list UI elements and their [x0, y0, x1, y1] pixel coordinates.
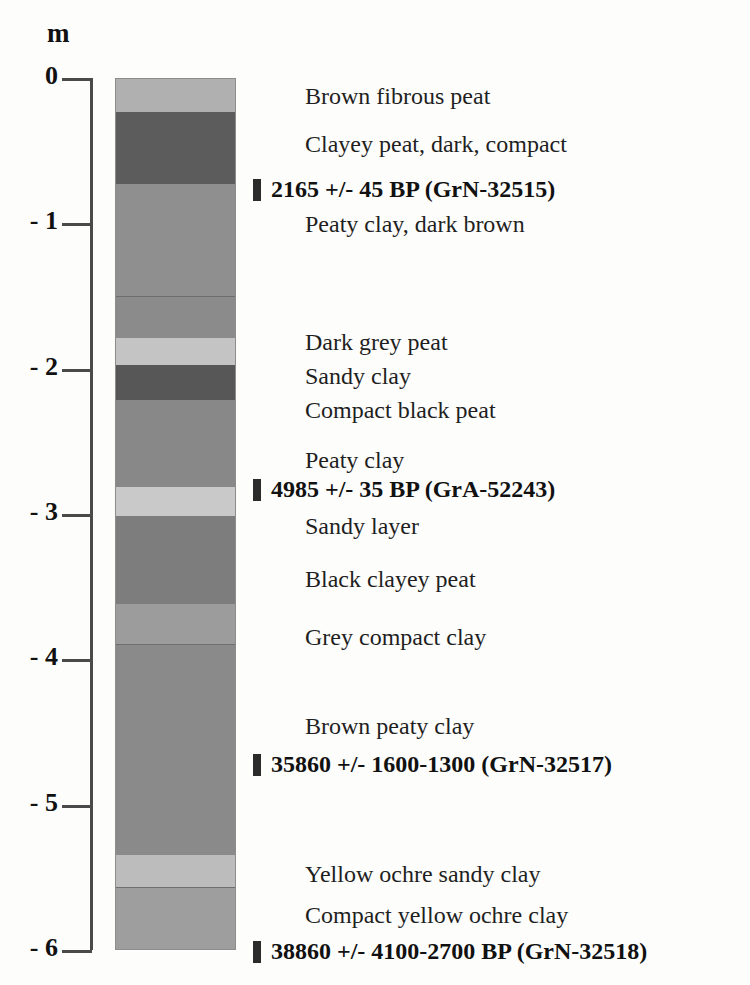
- date-marker-icon: [253, 179, 261, 201]
- litho-layer: [116, 487, 235, 516]
- litho-layer: [116, 338, 235, 366]
- radiocarbon-date: 38860 +/- 4100-2700 BP (GrN-32518): [253, 938, 647, 965]
- axis-tick-mark: [62, 78, 92, 81]
- radiocarbon-date-text: 35860 +/- 1600-1300 (GrN-32517): [271, 751, 612, 778]
- axis-tick-mark: [62, 950, 92, 953]
- litho-layer: [116, 184, 235, 296]
- axis-tick-label: - 3: [30, 497, 58, 527]
- axis-tick-label: - 4: [30, 642, 58, 672]
- layer-description: Black clayey peat: [305, 567, 476, 592]
- radiocarbon-date: 2165 +/- 45 BP (GrN-32515): [253, 176, 555, 203]
- layer-description: Clayey peat, dark, compact: [305, 132, 567, 157]
- axis-tick-mark: [62, 514, 92, 517]
- date-marker-icon: [253, 754, 261, 776]
- radiocarbon-date-text: 4985 +/- 35 BP (GrA-52243): [271, 476, 555, 503]
- axis-tick-label: - 5: [30, 788, 58, 818]
- litho-layer: [116, 644, 235, 855]
- date-marker-icon: [253, 941, 261, 963]
- radiocarbon-date: 4985 +/- 35 BP (GrA-52243): [253, 476, 555, 503]
- layer-description: Brown fibrous peat: [305, 84, 490, 109]
- layer-description: Yellow ochre sandy clay: [305, 862, 541, 887]
- litho-layer: [116, 112, 235, 183]
- radiocarbon-date-text: 2165 +/- 45 BP (GrN-32515): [271, 176, 555, 203]
- axis-tick-mark: [62, 223, 92, 226]
- layer-description: Compact black peat: [305, 398, 496, 423]
- layer-description: Compact yellow ochre clay: [305, 903, 568, 928]
- litho-layer: [116, 855, 235, 887]
- layer-description: Peaty clay: [305, 448, 404, 473]
- litho-layer: [116, 604, 235, 645]
- litho-layer: [116, 365, 235, 400]
- litho-layer: [116, 516, 235, 603]
- axis-tick-label: - 6: [30, 933, 58, 963]
- axis-tick-mark: [62, 369, 92, 372]
- layer-description: Sandy clay: [305, 364, 411, 389]
- axis-tick-mark: [62, 805, 92, 808]
- layer-description: Brown peaty clay: [305, 714, 474, 739]
- layer-description: Sandy layer: [305, 514, 419, 539]
- litho-layer: [116, 79, 235, 112]
- layer-description: Peaty clay, dark brown: [305, 212, 525, 237]
- axis-tick-label: - 2: [30, 352, 58, 382]
- axis-tick-label: 0: [45, 61, 58, 91]
- layer-description: Grey compact clay: [305, 625, 486, 650]
- radiocarbon-date-text: 38860 +/- 4100-2700 BP (GrN-32518): [271, 938, 647, 965]
- date-marker-icon: [253, 479, 261, 501]
- axis-tick-label: - 1: [30, 206, 58, 236]
- litho-layer: [116, 887, 235, 950]
- axis-tick-mark: [62, 659, 92, 662]
- radiocarbon-date: 35860 +/- 1600-1300 (GrN-32517): [253, 751, 612, 778]
- layer-description: Dark grey peat: [305, 330, 448, 355]
- litho-layer: [116, 296, 235, 338]
- litho-layer: [116, 400, 235, 487]
- stratigraphic-column-figure: m 0- 1- 2- 3- 4- 5- 6 Brown fibrous peat…: [0, 0, 750, 985]
- lithology-column: [115, 78, 236, 950]
- axis-unit-label: m: [47, 18, 70, 49]
